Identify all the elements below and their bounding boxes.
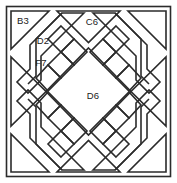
label-c6: C6 [86,16,99,27]
quilt-block-diagram: B3 C6 D2 F7 D6 [0,0,177,183]
label-d2: D2 [37,35,50,46]
pattern-canvas: B3 C6 D2 F7 D6 [0,0,177,183]
label-b3: B3 [17,15,29,26]
label-d6: D6 [87,90,100,101]
label-f7: F7 [35,57,47,68]
